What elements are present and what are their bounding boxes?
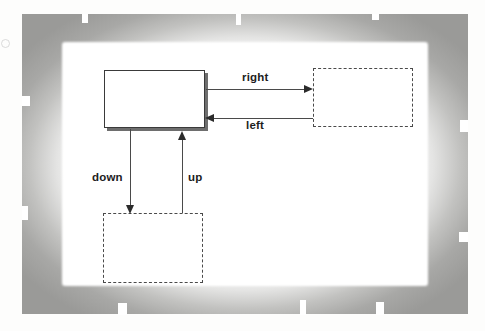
right-transition-label: right bbox=[242, 71, 269, 83]
diagram-canvas: right left down up bbox=[0, 0, 485, 331]
down-target-state-box[interactable] bbox=[103, 213, 203, 283]
down-transition-arrowhead bbox=[126, 205, 134, 214]
up-transition-label: up bbox=[188, 171, 202, 183]
right-transition-arrowhead bbox=[304, 85, 313, 93]
down-transition-line bbox=[130, 129, 131, 208]
right-target-state-box[interactable] bbox=[313, 68, 413, 127]
down-transition-label: down bbox=[92, 171, 123, 183]
up-transition-line bbox=[182, 140, 183, 213]
up-transition-arrowhead bbox=[178, 131, 186, 140]
scanned-figure-page: right left down up bbox=[0, 0, 485, 331]
right-transition-line bbox=[206, 89, 306, 90]
current-state-box[interactable] bbox=[104, 70, 205, 128]
left-transition-arrowhead bbox=[205, 114, 214, 122]
left-transition-label: left bbox=[246, 119, 264, 131]
